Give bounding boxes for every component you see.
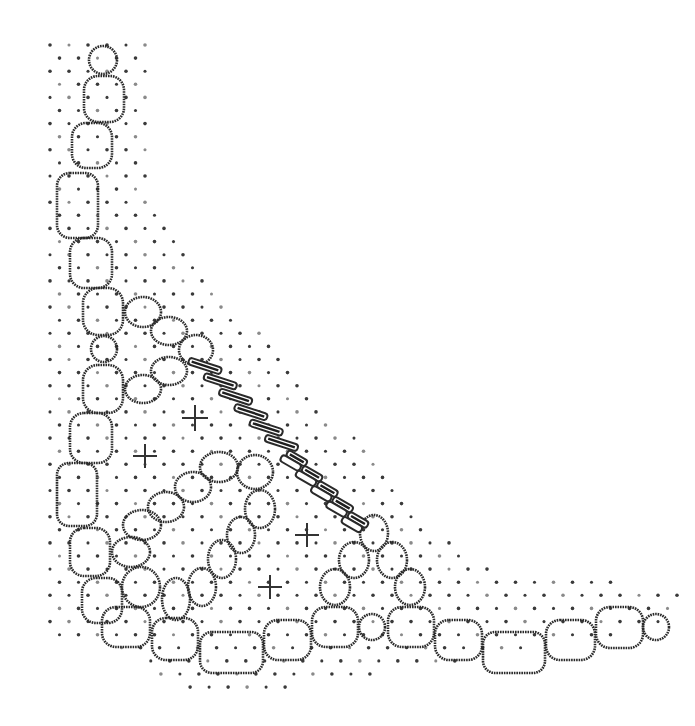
pricking-dot — [191, 449, 195, 453]
pricking-dot — [86, 489, 90, 493]
pricking-dot — [134, 476, 138, 480]
pricking-dot — [134, 161, 138, 165]
bottom-chain-stitch — [264, 620, 311, 660]
pricking-dot — [67, 489, 71, 493]
pricking-dot — [229, 528, 233, 532]
pricking-dot — [181, 253, 185, 257]
pricking-dot — [229, 554, 232, 557]
pricking-dot — [291, 646, 294, 649]
pricking-dot — [124, 332, 128, 336]
pricking-dot — [381, 607, 384, 610]
pricking-dot — [656, 620, 659, 623]
pricking-dot — [134, 266, 137, 269]
pricking-dot — [371, 463, 374, 466]
pricking-dot — [257, 332, 261, 336]
pricking-dot — [276, 410, 279, 413]
pricking-dot — [67, 305, 71, 309]
pricking-dot — [267, 633, 271, 637]
pricking-dot — [333, 620, 337, 624]
pricking-dot — [105, 253, 108, 256]
pricking-dot — [339, 659, 343, 663]
pricking-dot — [200, 436, 204, 440]
pricking-dot — [58, 580, 62, 584]
pricking-dot — [143, 96, 147, 100]
pricking-dot — [143, 306, 146, 309]
pricking-dot — [134, 292, 138, 296]
pricking-dot — [77, 633, 81, 637]
inner-loop-stitch — [162, 578, 190, 620]
inner-loop-stitch — [123, 510, 161, 540]
pricking-dot — [542, 594, 546, 598]
pricking-dot — [162, 253, 165, 256]
pricking-dot — [200, 515, 204, 519]
pricking-dot — [172, 423, 176, 427]
pricking-dot — [191, 266, 194, 269]
pricking-dot — [637, 594, 640, 597]
pricking-dot — [219, 332, 222, 335]
pricking-dot — [371, 541, 374, 544]
inner-loop-stitch — [200, 452, 238, 482]
pricking-dot — [200, 594, 204, 598]
pricking-dot — [153, 423, 157, 427]
pricking-dot — [143, 174, 147, 178]
pricking-dot — [210, 423, 214, 427]
pricking-dot — [200, 384, 203, 387]
pricking-dot — [343, 449, 347, 453]
pricking-dot — [178, 672, 181, 675]
pricking-dot — [248, 528, 252, 532]
pricking-dot — [590, 581, 593, 584]
pricking-dot — [637, 620, 641, 624]
pricking-dot — [200, 279, 204, 283]
pricking-dot — [115, 319, 118, 322]
pricking-dot — [295, 567, 299, 571]
pricking-dot — [96, 580, 100, 584]
pricking-dot — [67, 594, 70, 597]
pricking-dot — [124, 174, 128, 178]
pricking-dot — [273, 672, 277, 676]
pricking-dot — [305, 633, 309, 637]
pricking-dot — [276, 384, 280, 388]
pricking-dot — [115, 83, 118, 86]
pricking-dot — [210, 580, 214, 584]
pricking-dot — [390, 489, 393, 492]
pricking-dot — [115, 135, 119, 139]
pricking-dot — [77, 371, 81, 375]
pricking-dot — [396, 659, 400, 663]
pricking-dot — [229, 580, 233, 584]
pricking-dot — [134, 371, 138, 375]
pricking-dot — [286, 633, 289, 636]
pricking-dot — [324, 528, 327, 531]
pricking-dot — [115, 161, 118, 164]
pricking-dot — [352, 620, 356, 624]
pricking-dot — [305, 397, 309, 401]
pricking-dot — [200, 489, 204, 493]
pricking-dot — [238, 594, 241, 597]
pricking-dot — [324, 476, 328, 480]
pricking-dot — [105, 489, 108, 492]
pricking-dot — [162, 332, 165, 335]
pricking-dot — [58, 423, 62, 427]
pricking-dot — [58, 528, 62, 532]
pricking-dot — [238, 541, 242, 545]
inner-loop-stitch — [112, 537, 150, 567]
pricking-dot — [206, 659, 209, 662]
pricking-dot — [105, 436, 109, 440]
pricking-dot — [48, 594, 52, 598]
pricking-dot — [77, 476, 81, 480]
pricking-dot — [552, 580, 556, 584]
pricking-dot — [314, 541, 317, 544]
pricking-dot — [77, 449, 81, 453]
inner-loop-stitch — [148, 492, 184, 522]
pricking-dot — [153, 214, 156, 217]
pricking-dot — [115, 371, 119, 375]
pricking-dot — [143, 594, 147, 598]
pricking-dot — [238, 437, 241, 440]
pricking-dot — [191, 607, 195, 611]
pricking-dot — [238, 384, 242, 388]
pricking-dot — [115, 266, 119, 270]
left-vertical-chain — [57, 46, 124, 623]
pricking-dot — [96, 450, 99, 453]
pricking-dot — [48, 515, 52, 519]
pricking-dot — [219, 305, 223, 309]
pricking-dot — [428, 620, 431, 623]
